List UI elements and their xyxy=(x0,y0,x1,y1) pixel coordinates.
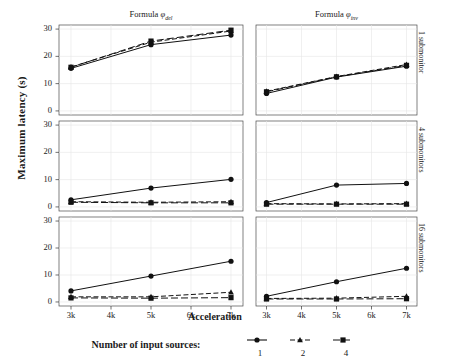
y-tick-label: 30 xyxy=(30,23,52,33)
x-tick-label: 3k xyxy=(61,310,81,320)
y-tick-label: 30 xyxy=(30,119,52,129)
circle-marker-icon xyxy=(246,334,268,346)
column-title-right: Formula φinv xyxy=(256,9,417,21)
x-tick-label: 5k xyxy=(327,310,347,320)
row-title-4-submonitors: 4 submonitors xyxy=(417,127,426,173)
y-tick-label: 30 xyxy=(30,215,52,225)
row-title-16-submonitors: 16 submonitors xyxy=(417,223,426,273)
y-tick-label: 10 xyxy=(30,269,52,279)
y-tick-label: 10 xyxy=(30,78,52,88)
legend-item[interactable]: 1 xyxy=(246,334,273,358)
legend-item[interactable]: 4 xyxy=(332,334,359,358)
x-tick-label: 3k xyxy=(257,310,277,320)
row-title-1-submonitor: 1 submonitor xyxy=(417,31,426,73)
legend-item-label: 4 xyxy=(344,348,349,358)
plot-canvas xyxy=(0,0,467,363)
y-tick-label: 20 xyxy=(30,50,52,60)
x-tick-label: 7k xyxy=(397,310,417,320)
legend: Number of input sources:124 xyxy=(0,334,467,358)
chart-figure: Maximum latency (s) Acceleration Formula… xyxy=(0,0,467,363)
x-tick-label: 5k xyxy=(141,310,161,320)
x-tick-label: 4k xyxy=(292,310,312,320)
triangle-marker-icon xyxy=(289,334,311,346)
y-tick-label: 20 xyxy=(30,242,52,252)
legend-item-label: 2 xyxy=(301,348,306,358)
y-tick-label: 0 xyxy=(30,201,52,211)
y-axis-label: Maximum latency (s) xyxy=(15,53,27,203)
x-tick-label: 7k xyxy=(221,310,241,320)
legend-title: Number of input sources: xyxy=(92,339,201,350)
y-tick-label: 0 xyxy=(30,296,52,306)
y-tick-label: 0 xyxy=(30,105,52,115)
legend-item-label: 1 xyxy=(258,348,263,358)
x-tick-label: 4k xyxy=(101,310,121,320)
square-marker-icon xyxy=(332,334,354,346)
column-title-left: Formula φdel xyxy=(59,9,243,21)
y-tick-label: 20 xyxy=(30,146,52,156)
y-tick-label: 10 xyxy=(30,174,52,184)
x-tick-label: 6k xyxy=(181,310,201,320)
x-tick-label: 6k xyxy=(362,310,382,320)
legend-item[interactable]: 2 xyxy=(289,334,316,358)
